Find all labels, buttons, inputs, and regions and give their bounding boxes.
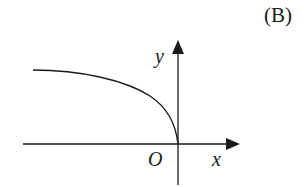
origin-label: O: [148, 148, 162, 170]
option-label: (B): [264, 3, 292, 27]
y-axis-arrow-icon: [172, 40, 184, 54]
graph-figure: y x O (B): [0, 0, 304, 187]
x-axis-arrow-icon: [226, 138, 240, 150]
function-curve: [33, 70, 178, 144]
x-axis-label: x: [211, 148, 221, 170]
graph-svg: y x O (B): [0, 0, 304, 187]
y-axis-label: y: [153, 45, 164, 68]
